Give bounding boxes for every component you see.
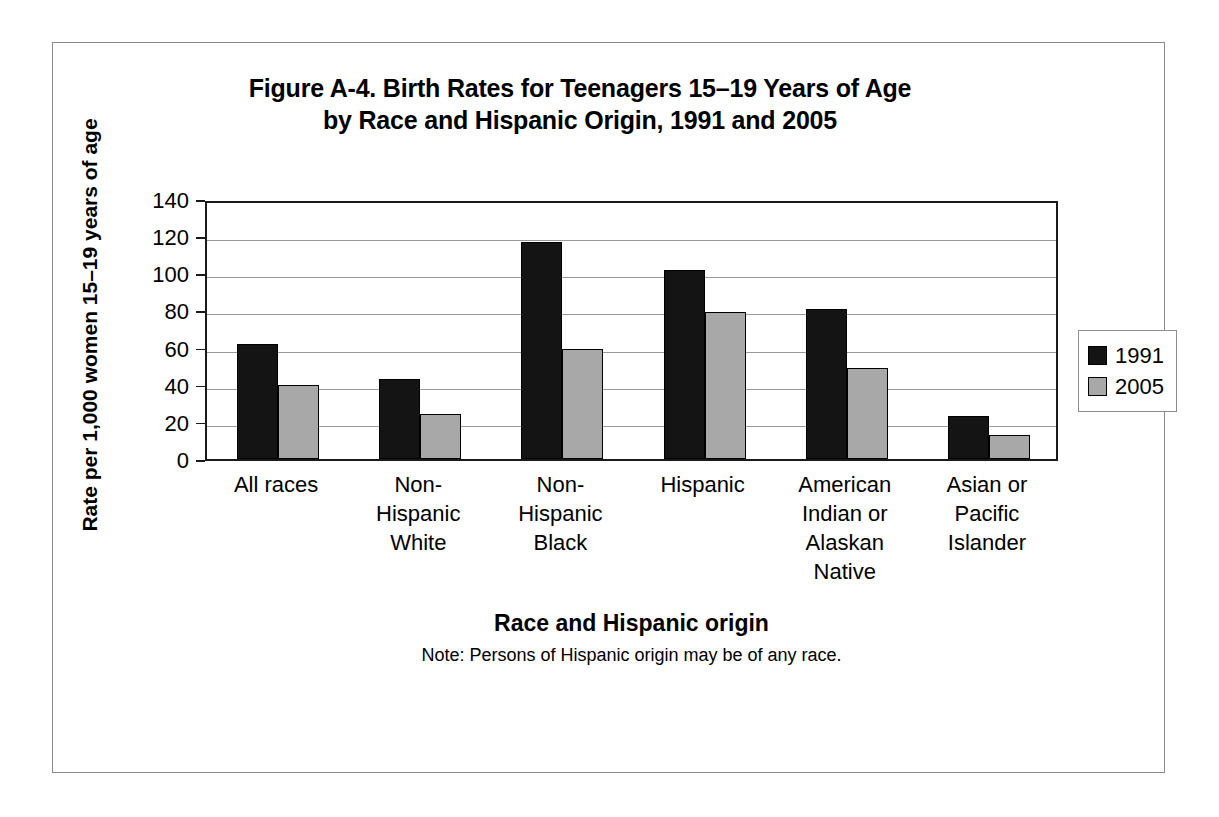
x-category-label: Non-HispanicWhite	[343, 470, 493, 557]
x-category-label: Asian orPacificIslander	[912, 470, 1062, 557]
bar-2005-series-b[interactable]	[278, 385, 319, 459]
legend-swatch-2005-icon	[1088, 377, 1107, 396]
y-tick-mark	[196, 311, 205, 313]
x-category-label-line: White	[343, 528, 493, 557]
bar-group	[521, 203, 603, 459]
y-tick-label: 140	[119, 190, 189, 212]
figure-page: Figure A-4. Birth Rates for Teenagers 15…	[0, 0, 1219, 817]
bar-2005-series-b[interactable]	[847, 368, 888, 459]
bar-2005-series-b[interactable]	[420, 414, 461, 459]
y-axis-title: Rate per 1,000 women 15–19 years of age	[62, 175, 118, 475]
y-tick-mark	[196, 460, 205, 462]
x-category-label-line: Islander	[912, 528, 1062, 557]
x-category-label-line: All races	[201, 470, 351, 499]
x-category-label-line: Alaskan	[770, 528, 920, 557]
y-tick-label: 120	[119, 227, 189, 249]
x-category-label-line: Non-	[343, 470, 493, 499]
y-tick-label: 100	[119, 264, 189, 286]
bar-group	[379, 203, 461, 459]
x-category-label-line: Hispanic	[485, 499, 635, 528]
x-category-label-line: Asian or	[912, 470, 1062, 499]
bar-2005-series-b[interactable]	[989, 435, 1030, 459]
chart-title-line-1: Figure A-4. Birth Rates for Teenagers 15…	[249, 74, 912, 102]
bar-2005-series-b[interactable]	[705, 312, 746, 459]
x-category-label: Hispanic	[628, 470, 778, 499]
y-tick-mark	[196, 386, 205, 388]
bar-group	[806, 203, 888, 459]
x-category-label-line: Native	[770, 557, 920, 586]
bar-group	[237, 203, 319, 459]
bar-1991-series-a[interactable]	[521, 242, 562, 459]
legend-label-2005: 2005	[1115, 376, 1164, 398]
bar-1991-series-a[interactable]	[237, 344, 278, 459]
bar-1991-series-a[interactable]	[948, 416, 989, 459]
bar-2005-series-b[interactable]	[562, 349, 603, 459]
x-category-label-line: Non-	[485, 470, 635, 499]
legend-item-2005[interactable]: 2005	[1088, 371, 1164, 402]
legend-label-1991: 1991	[1115, 345, 1164, 367]
legend-item-1991[interactable]: 1991	[1088, 340, 1164, 371]
chart-title-line-2: by Race and Hispanic Origin, 1991 and 20…	[120, 104, 1040, 136]
x-category-label-line: Pacific	[912, 499, 1062, 528]
x-category-label: Non-HispanicBlack	[485, 470, 635, 557]
y-tick-label: 60	[119, 339, 189, 361]
x-category-label-line: Hispanic	[343, 499, 493, 528]
legend: 1991 2005	[1078, 330, 1177, 412]
y-tick-label: 80	[119, 301, 189, 323]
y-tick-label: 20	[119, 413, 189, 435]
x-axis-title: Race and Hispanic origin	[205, 610, 1058, 637]
y-tick-mark	[196, 200, 205, 202]
x-category-label-line: Indian or	[770, 499, 920, 528]
x-category-label: AmericanIndian orAlaskanNative	[770, 470, 920, 586]
y-tick-mark	[196, 274, 205, 276]
legend-swatch-1991-icon	[1088, 346, 1107, 365]
plot-area	[205, 201, 1058, 461]
bars-layer	[207, 203, 1056, 459]
y-tick-label: 0	[119, 450, 189, 472]
x-category-label-line: Black	[485, 528, 635, 557]
y-axis-title-text: Rate per 1,000 women 15–19 years of age	[77, 118, 103, 531]
chart-note: Note: Persons of Hispanic origin may be …	[205, 645, 1058, 666]
x-category-label-line: American	[770, 470, 920, 499]
chart-title: Figure A-4. Birth Rates for Teenagers 15…	[120, 72, 1040, 136]
y-tick-label: 40	[119, 376, 189, 398]
bar-1991-series-a[interactable]	[806, 309, 847, 459]
bar-1991-series-a[interactable]	[379, 379, 420, 459]
y-axis-title-line-1: Rate per 1,000 women	[78, 311, 101, 532]
bar-group	[664, 203, 746, 459]
y-tick-mark	[196, 237, 205, 239]
y-tick-mark	[196, 423, 205, 425]
x-category-label: All races	[201, 470, 351, 499]
bar-group	[948, 203, 1030, 459]
x-category-label-line: Hispanic	[628, 470, 778, 499]
bar-1991-series-a[interactable]	[664, 270, 705, 459]
y-axis-title-line-2: 15–19 years of age	[78, 118, 101, 305]
y-tick-mark	[196, 349, 205, 351]
